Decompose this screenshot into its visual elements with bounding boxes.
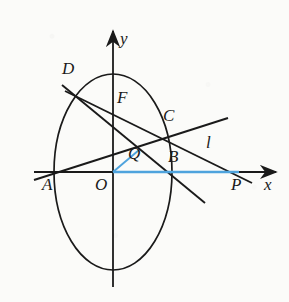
- diagram-canvas: y x D F C l Q B A O P: [0, 0, 289, 302]
- label-point-O: O: [95, 176, 107, 193]
- label-point-B: B: [168, 148, 178, 165]
- label-point-P: P: [231, 176, 241, 193]
- label-point-A: A: [42, 176, 52, 193]
- label-point-y: y: [120, 30, 128, 47]
- geometry-figure: [0, 0, 289, 302]
- label-point-D: D: [62, 60, 74, 77]
- label-point-C: C: [163, 107, 174, 124]
- label-point-x: x: [264, 176, 272, 193]
- label-point-Q: Q: [128, 145, 140, 162]
- line-l: [65, 91, 252, 183]
- label-line-l: l: [206, 134, 211, 151]
- label-point-F: F: [117, 89, 127, 106]
